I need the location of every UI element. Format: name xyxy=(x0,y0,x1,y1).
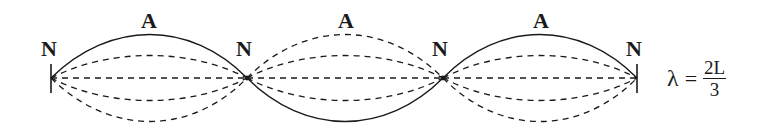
antinode-label: A xyxy=(533,10,549,32)
wavelength-equation: λ = 2L 3 xyxy=(667,58,726,99)
dashed-curve xyxy=(443,78,637,101)
fraction: 2L 3 xyxy=(703,58,726,99)
equals-sign: = xyxy=(685,66,697,92)
dashed-curve xyxy=(51,56,247,79)
node-label: N xyxy=(236,38,252,60)
antinode-label: A xyxy=(338,10,354,32)
node-label: N xyxy=(626,38,642,60)
dashed-curve xyxy=(247,56,443,79)
fraction-numerator: 2L xyxy=(703,58,726,79)
dashed-curve xyxy=(247,35,443,79)
dashed-curve xyxy=(443,56,637,79)
dashed-curve xyxy=(51,78,247,122)
node-label: N xyxy=(41,38,57,60)
node-label: N xyxy=(432,38,448,60)
dashed-curve xyxy=(247,78,443,101)
fraction-denominator: 3 xyxy=(710,79,720,99)
antinode-label: A xyxy=(141,10,157,32)
dashed-curve xyxy=(443,78,637,122)
dashed-curve xyxy=(51,78,247,101)
dashed-envelopes xyxy=(51,35,637,122)
node-point xyxy=(245,76,250,81)
standing-wave-diagram xyxy=(0,0,778,125)
solid-wave xyxy=(51,35,637,122)
node-point xyxy=(441,76,446,81)
lambda-symbol: λ xyxy=(667,65,679,92)
